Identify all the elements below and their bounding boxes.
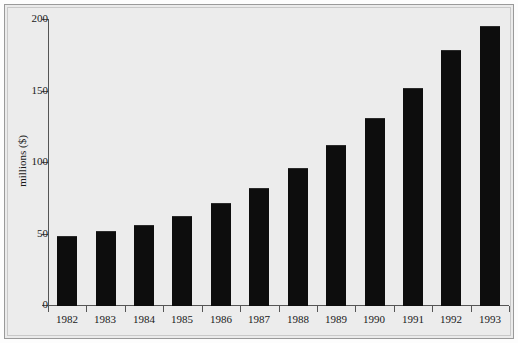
y-axis-tick-label-wrap: 200 (0, 13, 48, 24)
x-axis-tick-label: 1992 (432, 313, 470, 325)
x-axis-tick-label: 1987 (240, 313, 278, 325)
x-axis-tick (48, 306, 49, 312)
x-axis-tick (471, 306, 472, 312)
x-axis-tick (394, 306, 395, 312)
x-axis-tick (355, 306, 356, 312)
bar-1991 (403, 88, 423, 306)
y-axis-tick-label: 0 (14, 299, 48, 310)
bar-chart-figure: millions ($) 050100150200198219831984198… (0, 0, 518, 343)
bar-1984 (134, 225, 154, 306)
y-axis-tick-label: 200 (14, 13, 48, 24)
y-axis-tick-label: 150 (14, 85, 48, 96)
bar-1982 (57, 236, 77, 306)
x-axis-tick-label: 1991 (394, 313, 432, 325)
x-axis-tick-label: 1985 (163, 313, 201, 325)
y-axis-tick-label: 50 (14, 228, 48, 239)
x-axis-tick-label: 1982 (48, 313, 86, 325)
x-axis-tick-label: 1988 (279, 313, 317, 325)
bar-1985 (172, 216, 192, 306)
x-axis-tick (509, 306, 510, 312)
x-axis-tick-label: 1983 (86, 313, 124, 325)
bar-1993 (480, 26, 500, 306)
x-axis-tick (125, 306, 126, 312)
bar-1989 (326, 145, 346, 306)
y-axis-tick-label-wrap: 150 (0, 85, 48, 96)
plot-area: millions ($) 050100150200198219831984198… (0, 0, 518, 343)
bar-1987 (249, 188, 269, 306)
bar-1986 (211, 203, 231, 306)
x-axis-tick (202, 306, 203, 312)
x-axis-tick-label: 1986 (202, 313, 240, 325)
x-axis-tick-label: 1984 (125, 313, 163, 325)
bar-1990 (365, 118, 385, 306)
x-axis-tick-label: 1990 (355, 313, 393, 325)
y-axis-tick-label-wrap: 50 (0, 228, 48, 239)
y-axis-tick-label: 100 (14, 156, 48, 167)
y-axis-line (48, 19, 49, 306)
x-axis-tick (86, 306, 87, 312)
x-axis-tick (432, 306, 433, 312)
bar-1992 (441, 50, 461, 306)
x-axis-tick (317, 306, 318, 312)
x-axis-tick (163, 306, 164, 312)
bar-1988 (288, 168, 308, 306)
x-axis-tick (279, 306, 280, 312)
y-axis-tick-label-wrap: 0 (0, 299, 48, 310)
bar-1983 (96, 231, 116, 306)
y-axis-tick-label-wrap: 100 (0, 156, 48, 167)
x-axis-tick-label: 1993 (471, 313, 509, 325)
x-axis-tick (240, 306, 241, 312)
x-axis-tick-label: 1989 (317, 313, 355, 325)
